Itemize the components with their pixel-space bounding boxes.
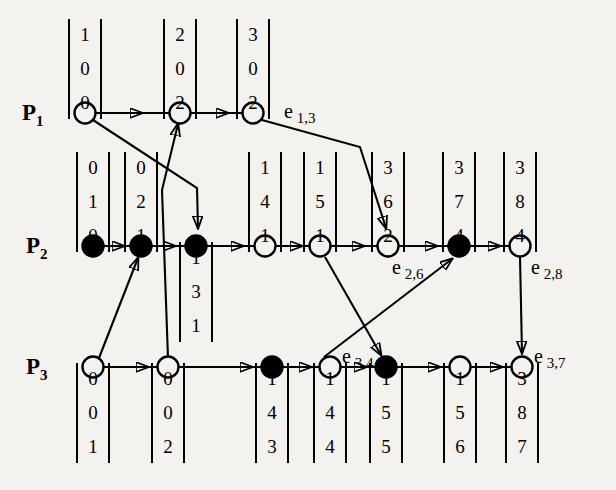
- vector-clock-n31: 001: [76, 363, 110, 463]
- vector-component-n23-1: 3: [191, 277, 201, 307]
- vector-component-n11-2: 0: [80, 88, 90, 118]
- process-label-letter: P: [26, 354, 40, 379]
- event-label-e28: e 2,8: [531, 256, 562, 283]
- diagram-canvas: 1002023020100211311411513623743840010021…: [0, 0, 616, 490]
- vector-component-n22-2: 1: [136, 221, 146, 251]
- vector-component-n22-1: 2: [136, 187, 146, 217]
- vector-component-n37-2: 7: [517, 432, 527, 462]
- vector-component-n37-1: 8: [517, 398, 527, 428]
- process-label-P1: P1: [22, 100, 44, 130]
- process-label-subscript: 2: [40, 246, 48, 262]
- process-label-letter: P: [26, 233, 40, 258]
- vector-component-n25-0: 1: [315, 153, 325, 183]
- vector-component-n33-2: 3: [267, 432, 277, 462]
- vector-component-n21-2: 0: [88, 221, 98, 251]
- event-label-letter: e: [534, 345, 543, 367]
- vector-component-n27-2: 4: [454, 221, 464, 251]
- message-edge-n28-n37: [520, 257, 522, 353]
- vector-component-n32-0: 0: [163, 364, 173, 394]
- event-label-e34: e 3,4: [342, 345, 373, 372]
- vector-component-n12-2: 2: [175, 88, 185, 118]
- vector-component-n28-0: 3: [515, 153, 525, 183]
- vector-component-n21-1: 1: [88, 187, 98, 217]
- vector-clock-n21: 010: [76, 152, 110, 252]
- vector-component-n28-1: 8: [515, 187, 525, 217]
- vector-component-n31-1: 0: [88, 398, 98, 428]
- event-label-letter: e: [342, 345, 351, 367]
- vector-clock-n26: 362: [371, 152, 405, 252]
- event-label-e13: e 1,3: [284, 100, 315, 127]
- event-label-subscript: 2,8: [540, 266, 563, 282]
- vector-component-n24-2: 1: [260, 221, 270, 251]
- vector-component-n33-1: 4: [267, 398, 277, 428]
- vector-component-n37-0: 3: [517, 364, 527, 394]
- vector-component-n32-2: 2: [163, 432, 173, 462]
- vector-component-n22-0: 0: [136, 153, 146, 183]
- vector-clock-n13: 302: [236, 19, 270, 119]
- vector-component-n23-0: 1: [191, 243, 201, 273]
- vector-component-n34-2: 4: [325, 432, 335, 462]
- message-edge-n32-n12: [162, 124, 178, 358]
- vector-component-n31-0: 0: [88, 364, 98, 394]
- vector-component-n11-0: 1: [80, 20, 90, 50]
- vector-component-n35-2: 5: [381, 432, 391, 462]
- vector-component-n11-1: 0: [80, 54, 90, 84]
- vector-component-n33-0: 1: [267, 364, 277, 394]
- message-edge-n31-n22: [99, 258, 138, 358]
- vector-component-n24-0: 1: [260, 153, 270, 183]
- vector-component-n34-1: 4: [325, 398, 335, 428]
- vector-clock-n33: 143: [255, 363, 289, 463]
- vector-component-n23-2: 1: [191, 311, 201, 341]
- vector-clock-n25: 151: [303, 152, 337, 252]
- vector-component-n27-1: 7: [454, 187, 464, 217]
- event-label-letter: e: [284, 100, 293, 122]
- message-edge-n25-n35: [325, 257, 381, 355]
- event-label-subscript: 3,7: [543, 355, 566, 371]
- vector-clock-n11: 100: [68, 19, 102, 119]
- vector-clock-n34: 144: [313, 363, 347, 463]
- vector-component-n35-0: 1: [381, 364, 391, 394]
- vector-clock-n37: 387: [505, 363, 539, 463]
- event-label-letter: e: [531, 256, 540, 278]
- vector-component-n24-1: 4: [260, 187, 270, 217]
- vector-component-n35-1: 5: [381, 398, 391, 428]
- event-label-subscript: 1,3: [293, 110, 316, 126]
- vector-clock-n24: 141: [248, 152, 282, 252]
- vector-component-n36-1: 5: [455, 398, 465, 428]
- message-edge-n34-n27: [324, 259, 452, 357]
- vector-component-n13-2: 2: [248, 88, 258, 118]
- process-label-subscript: 1: [36, 113, 44, 129]
- vector-component-n32-1: 0: [163, 398, 173, 428]
- vector-component-n26-2: 2: [383, 221, 393, 251]
- process-label-subscript: 3: [40, 367, 48, 383]
- vector-component-n27-0: 3: [454, 153, 464, 183]
- vector-component-n13-1: 0: [248, 54, 258, 84]
- vector-component-n28-2: 4: [515, 221, 525, 251]
- vector-component-n26-1: 6: [383, 187, 393, 217]
- vector-clock-n27: 374: [442, 152, 476, 252]
- vector-clock-n35: 155: [369, 363, 403, 463]
- event-label-subscript: 2,6: [401, 266, 424, 282]
- vector-clock-n36: 156: [443, 363, 477, 463]
- process-label-letter: P: [22, 100, 36, 125]
- vector-component-n12-1: 0: [175, 54, 185, 84]
- vector-component-n34-0: 1: [325, 364, 335, 394]
- event-label-letter: e: [392, 256, 401, 278]
- vector-component-n25-1: 5: [315, 187, 325, 217]
- vector-component-n36-2: 6: [455, 432, 465, 462]
- vector-clock-n23: 131: [179, 242, 213, 342]
- vector-component-n31-2: 1: [88, 432, 98, 462]
- vector-component-n26-0: 3: [383, 153, 393, 183]
- vector-clock-n12: 202: [163, 19, 197, 119]
- vector-clock-n28: 384: [503, 152, 537, 252]
- vector-component-n36-0: 1: [455, 364, 465, 394]
- vector-component-n12-0: 2: [175, 20, 185, 50]
- event-label-e26: e 2,6: [392, 256, 423, 283]
- event-label-subscript: 3,4: [351, 355, 374, 371]
- event-label-e37: e 3,7: [534, 345, 565, 372]
- process-label-P2: P2: [26, 233, 48, 263]
- process-label-P3: P3: [26, 354, 48, 384]
- vector-component-n13-0: 3: [248, 20, 258, 50]
- vector-clock-n22: 021: [124, 152, 158, 252]
- vector-component-n21-0: 0: [88, 153, 98, 183]
